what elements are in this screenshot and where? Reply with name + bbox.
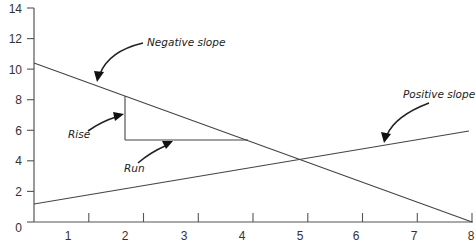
negative-slope-line (34, 63, 472, 222)
run-arrow (138, 146, 165, 163)
y-tick-label: 2 (15, 185, 22, 199)
arrow-head-icon (113, 112, 124, 121)
negative-slope-arrow (100, 43, 143, 74)
y-tick-label: 12 (9, 32, 23, 46)
x-tick-label: 3 (181, 229, 188, 243)
arrow-head-icon (162, 141, 173, 149)
x-tick-label: 5 (297, 229, 304, 243)
y-tick-labels: 0 2 4 6 8 10 12 14 (9, 2, 23, 235)
x-tick-label: 6 (353, 229, 360, 243)
positive-slope-arrow (387, 103, 429, 135)
rise-label: Rise (68, 128, 90, 140)
y-ticks (27, 8, 34, 222)
positive-slope-label: Positive slope (403, 88, 475, 100)
negative-slope-label: Negative slope (147, 36, 225, 48)
arrow-head-icon (381, 132, 391, 143)
x-ticks (89, 213, 472, 222)
x-tick-label: 1 (65, 229, 72, 243)
y-tick-label: 8 (15, 93, 22, 107)
arrow-head-icon (94, 71, 104, 82)
y-tick-label: 0 (15, 221, 22, 235)
rise-arrow (88, 117, 116, 131)
x-tick-label: 8 (468, 229, 475, 243)
x-tick-label: 2 (122, 229, 129, 243)
y-tick-label: 4 (15, 154, 22, 168)
y-tick-label: 6 (15, 124, 22, 138)
y-tick-label: 14 (9, 2, 23, 16)
slope-chart: 0 2 4 6 8 10 12 14 1 2 3 4 5 6 7 8 Negat… (0, 0, 476, 251)
x-tick-label: 7 (411, 229, 418, 243)
y-tick-label: 10 (9, 63, 23, 77)
run-label: Run (124, 162, 145, 174)
x-tick-labels: 1 2 3 4 5 6 7 8 (65, 229, 475, 243)
x-tick-label: 4 (239, 229, 246, 243)
